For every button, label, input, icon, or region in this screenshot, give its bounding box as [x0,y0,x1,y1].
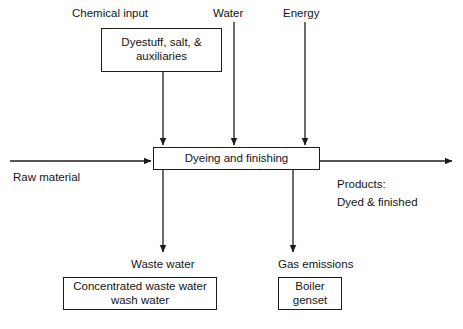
label-products-detail: Dyed & finished [337,196,418,209]
label-waste-water: Waste water [131,258,194,271]
label-energy: Energy [283,7,319,20]
box-dyestuff-salt-auxiliaries: Dyestuff, salt, & auxiliaries [101,28,222,72]
label-products: Products: [337,178,386,191]
process-flow-diagram: Chemical input Water Energy Dyestuff, sa… [0,0,463,329]
process-label: Dyeing and finishing [185,152,289,166]
label-chemical-input: Chemical input [72,7,148,20]
label-water: Water [213,7,243,20]
label-gas-emissions: Gas emissions [278,258,353,271]
box-dyeing-and-finishing: Dyeing and finishing [153,147,320,170]
box-boiler-genset: Boiler genset [278,277,342,310]
box-dyestuff-label: Dyestuff, salt, & auxiliaries [121,36,201,63]
box-concentrated-waste-water: Concentrated waste water wash water [63,277,217,310]
label-raw-material: Raw material [13,171,80,184]
box-boiler-label: Boiler genset [293,280,328,307]
clipped-caption [0,320,463,329]
box-waste-water-label: Concentrated waste water wash water [73,280,207,307]
